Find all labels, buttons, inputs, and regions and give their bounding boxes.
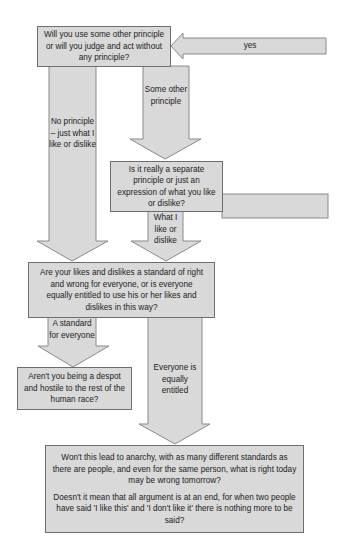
question-despot-box: Aren't you being a despot and hostile to… (17, 367, 132, 410)
arrow-no-principle (37, 66, 108, 261)
question-anarchy-text-2: Doesn't it mean that all argument is at … (51, 492, 298, 527)
question-principle-text: Will you use some other principle or wil… (41, 29, 167, 64)
question-despot-text: Aren't you being a despot and hostile to… (22, 371, 127, 406)
question-principle-box: Will you use some other principle or wil… (37, 26, 171, 67)
question-separate-box: Is it really a separate principle or jus… (110, 161, 223, 212)
question-anarchy-box: Won't this lead to anarchy, with as many… (45, 445, 304, 533)
label-standard-everyone: A standard for everyone (48, 318, 96, 341)
bar-right (222, 194, 328, 218)
label-what-i-like: What I like or dislike (148, 212, 183, 247)
label-some-other-principle: Some other principle (143, 84, 189, 107)
label-equally-entitled: Everyone is equally entitled (150, 362, 200, 397)
question-standard-text: Are your likes and dislikes a standard o… (37, 267, 206, 313)
arrow-some-other-principle (130, 66, 201, 159)
question-anarchy-text-1: Won't this lead to anarchy, with as many… (51, 452, 298, 487)
label-yes: yes (230, 40, 270, 52)
label-no-principle: No principle – just what I like or disli… (49, 116, 96, 151)
question-separate-text: Is it really a separate principle or jus… (115, 164, 218, 210)
question-standard-box: Are your likes and dislikes a standard o… (28, 262, 215, 318)
